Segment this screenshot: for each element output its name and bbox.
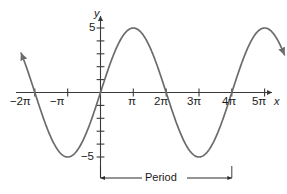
x-axis-label: x — [274, 96, 280, 107]
x-tick-label-2pi: 2π — [154, 96, 168, 108]
period-label: Period — [145, 172, 177, 183]
x-tick-label--2pi: −2π — [10, 96, 30, 108]
x-tick-label--pi: −π — [50, 96, 64, 108]
x-tick-label-pi: π — [128, 96, 136, 108]
sine-graph-figure: −2π −π π 2π 3π 4π 5π 5 −5 y x Period — [0, 0, 287, 194]
y-axis — [97, 16, 105, 178]
plot-canvas — [0, 0, 287, 194]
y-axis-label: y — [94, 8, 100, 19]
y-tick-label--5: −5 — [81, 151, 94, 163]
x-tick-label-5pi: 5π — [252, 96, 266, 108]
y-tick-label-5: 5 — [89, 22, 95, 34]
x-tick-label-4pi: 4π — [222, 96, 236, 108]
x-tick-label-3pi: 3π — [187, 96, 201, 108]
